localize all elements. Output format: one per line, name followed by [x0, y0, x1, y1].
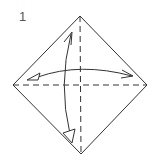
vertical-crease-line: [80, 16, 81, 154]
arrowhead-bottom-icon: [63, 129, 75, 143]
origami-diagram: [0, 0, 158, 162]
vertical-fold-unfold-arrow: [63, 32, 75, 143]
arrowhead-top-icon: [64, 32, 72, 45]
arrowhead-left-icon: [27, 73, 40, 80]
